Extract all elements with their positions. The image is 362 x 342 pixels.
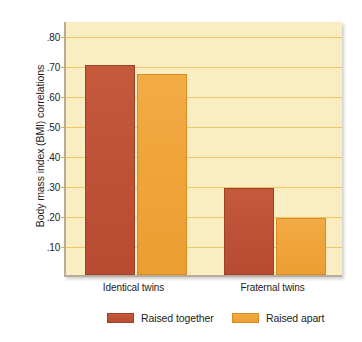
legend-label: Raised together — [141, 312, 214, 324]
y-axis-tick-mark — [61, 247, 66, 248]
plot-area — [64, 22, 342, 277]
x-axis-tick-label: Identical twins — [103, 282, 164, 293]
y-axis-tick-label: .60 — [30, 92, 60, 103]
y-axis-tick-label: .10 — [30, 242, 60, 253]
gridline — [66, 37, 342, 38]
y-axis-tick-label: .80 — [30, 32, 60, 43]
y-axis-tick-mark — [61, 157, 66, 158]
y-axis-tick-label: .20 — [30, 212, 60, 223]
chart-legend: Raised togetherRaised apart — [64, 312, 354, 330]
x-axis-tick-label-group: Identical twinsFraternal twins — [64, 282, 342, 298]
legend-color-swatch — [107, 313, 134, 323]
y-axis-tick-label: .30 — [30, 182, 60, 193]
x-axis-tick-label: Fraternal twins — [240, 282, 304, 293]
bar — [137, 74, 187, 275]
y-axis-tick-label: .70 — [30, 62, 60, 73]
y-axis-tick-label: .40 — [30, 152, 60, 163]
y-axis-tick-mark — [61, 67, 66, 68]
bar — [224, 188, 274, 275]
y-axis-tick-label-group: .80.70.60.50.40.30.20.10 — [30, 22, 60, 277]
legend-label: Raised apart — [266, 312, 324, 324]
y-axis-tick-mark — [61, 187, 66, 188]
bar — [276, 218, 326, 275]
y-axis-tick-mark — [61, 127, 66, 128]
y-axis-tick-mark — [61, 97, 66, 98]
legend-color-swatch — [232, 313, 259, 323]
bar — [85, 65, 135, 275]
legend-entry: Raised apart — [232, 312, 324, 324]
y-axis-tick-label: .50 — [30, 122, 60, 133]
legend-entry: Raised together — [107, 312, 214, 324]
y-axis-tick-mark — [61, 217, 66, 218]
y-axis-tick-mark — [61, 37, 66, 38]
bmi-twin-correlation-chart: Body mass index (BMI) correlations .80.7… — [0, 0, 362, 342]
